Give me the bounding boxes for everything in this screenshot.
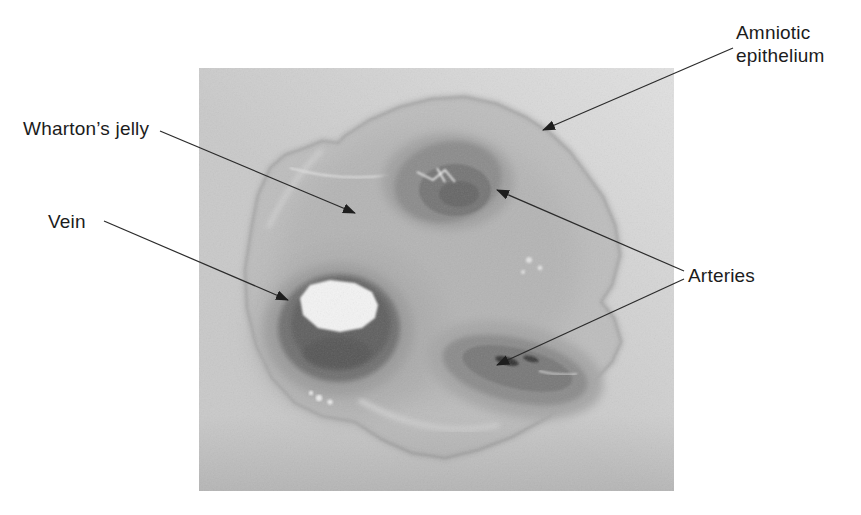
figure-page: Amniotic epithelium Wharton’s jelly Vein… xyxy=(0,0,861,515)
label-arteries: Arteries xyxy=(688,264,755,287)
label-amniotic-epithelium: Amniotic epithelium xyxy=(736,21,838,67)
micrograph-photo xyxy=(199,68,674,491)
label-whartons-jelly: Wharton’s jelly xyxy=(23,117,149,140)
specimen-illustration xyxy=(199,68,674,491)
label-vein: Vein xyxy=(48,210,86,233)
photo-grain xyxy=(199,68,674,491)
